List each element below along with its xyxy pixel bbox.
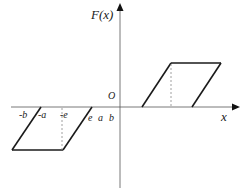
- origin-label: O: [108, 91, 115, 101]
- x-axis-arrow-icon: [232, 104, 240, 111]
- x-axis-label: x: [221, 110, 227, 123]
- y-axis-label: F(x): [91, 8, 113, 21]
- hysteresis-diagram: [0, 0, 250, 196]
- tick-e: e: [88, 113, 92, 123]
- tick-neg-a: -a: [38, 110, 46, 120]
- tick-a: a: [98, 113, 103, 123]
- tick-b: b: [109, 113, 114, 123]
- y-axis-arrow-icon: [117, 3, 124, 11]
- right-loop: [142, 63, 221, 107]
- tick-neg-b: -b: [19, 110, 27, 120]
- tick-neg-e: -e: [60, 110, 68, 120]
